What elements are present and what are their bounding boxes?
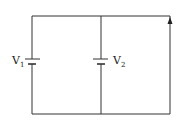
circuit-wires [0,0,181,122]
label-v1-sub: 1 [20,61,24,69]
label-v2-text: V [113,54,121,67]
label-v2-sub: 2 [121,61,125,69]
battery-v1-icon [25,59,40,64]
label-v2: V2 [113,55,125,69]
label-v1: V1 [12,55,24,69]
label-v1-text: V [12,54,20,67]
battery-v2-icon [93,59,108,64]
current-arrow-icon [168,17,173,24]
circuit-diagram: V1 V2 [0,0,181,122]
